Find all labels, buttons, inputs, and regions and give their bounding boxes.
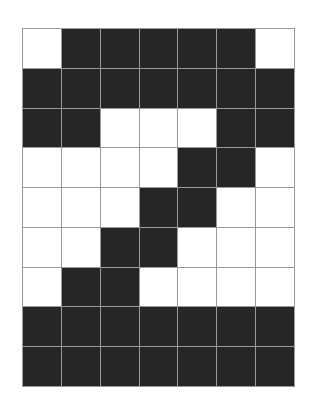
filled-cell bbox=[101, 29, 139, 68]
empty-cell bbox=[256, 29, 294, 68]
empty-cell bbox=[256, 268, 294, 307]
filled-cell bbox=[178, 148, 216, 187]
empty-cell bbox=[23, 29, 61, 68]
filled-cell bbox=[178, 69, 216, 108]
filled-cell bbox=[256, 307, 294, 346]
filled-cell bbox=[62, 29, 100, 68]
empty-cell bbox=[140, 268, 178, 307]
filled-cell bbox=[23, 69, 61, 108]
filled-cell bbox=[140, 307, 178, 346]
filled-cell bbox=[178, 347, 216, 386]
empty-cell bbox=[62, 148, 100, 187]
empty-cell bbox=[23, 268, 61, 307]
filled-cell bbox=[217, 109, 255, 148]
filled-cell bbox=[217, 69, 255, 108]
empty-cell bbox=[62, 188, 100, 227]
filled-cell bbox=[101, 307, 139, 346]
filled-cell bbox=[140, 29, 178, 68]
empty-cell bbox=[217, 188, 255, 227]
empty-cell bbox=[23, 188, 61, 227]
filled-cell bbox=[62, 268, 100, 307]
filled-cell bbox=[217, 29, 255, 68]
filled-cell bbox=[62, 347, 100, 386]
filled-cell bbox=[217, 148, 255, 187]
filled-cell bbox=[140, 188, 178, 227]
empty-cell bbox=[140, 148, 178, 187]
filled-cell bbox=[62, 307, 100, 346]
empty-cell bbox=[178, 268, 216, 307]
empty-cell bbox=[217, 268, 255, 307]
filled-cell bbox=[101, 268, 139, 307]
filled-cell bbox=[23, 307, 61, 346]
filled-cell bbox=[217, 307, 255, 346]
filled-cell bbox=[178, 307, 216, 346]
filled-cell bbox=[178, 188, 216, 227]
filled-cell bbox=[23, 109, 61, 148]
empty-cell bbox=[62, 228, 100, 267]
empty-cell bbox=[178, 109, 216, 148]
filled-cell bbox=[256, 109, 294, 148]
filled-cell bbox=[62, 69, 100, 108]
empty-cell bbox=[23, 228, 61, 267]
empty-cell bbox=[256, 148, 294, 187]
empty-cell bbox=[256, 188, 294, 227]
filled-cell bbox=[140, 228, 178, 267]
empty-cell bbox=[101, 188, 139, 227]
filled-cell bbox=[217, 347, 255, 386]
filled-cell bbox=[101, 69, 139, 108]
empty-cell bbox=[178, 228, 216, 267]
filled-cell bbox=[140, 69, 178, 108]
empty-cell bbox=[256, 228, 294, 267]
empty-cell bbox=[101, 109, 139, 148]
filled-cell bbox=[256, 69, 294, 108]
pixel-grid bbox=[22, 28, 295, 387]
empty-cell bbox=[140, 109, 178, 148]
filled-cell bbox=[101, 347, 139, 386]
filled-cell bbox=[23, 347, 61, 386]
filled-cell bbox=[62, 109, 100, 148]
filled-cell bbox=[140, 347, 178, 386]
empty-cell bbox=[23, 148, 61, 187]
empty-cell bbox=[217, 228, 255, 267]
filled-cell bbox=[256, 347, 294, 386]
filled-cell bbox=[101, 228, 139, 267]
filled-cell bbox=[178, 29, 216, 68]
empty-cell bbox=[101, 148, 139, 187]
